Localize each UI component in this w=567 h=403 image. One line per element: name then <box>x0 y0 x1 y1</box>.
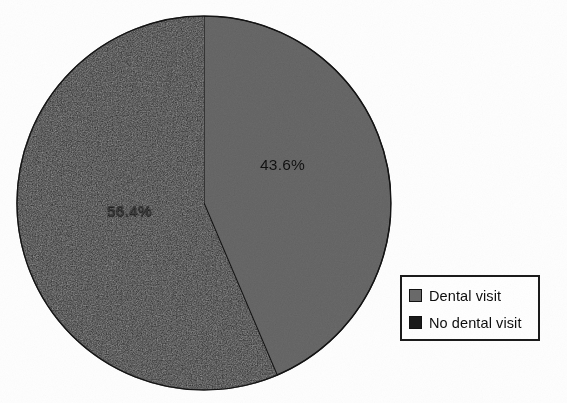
legend-item-dental-visit: Dental visit <box>409 282 532 309</box>
slice-label-no-dental-visit: 56.4% <box>107 202 152 220</box>
chart-legend: Dental visit No dental visit <box>400 275 540 341</box>
pie-chart-graphic <box>0 0 567 403</box>
legend-item-no-dental-visit: No dental visit <box>409 309 532 336</box>
slice-label-dental-visit: 43.6% <box>260 156 305 174</box>
legend-label-dental-visit: Dental visit <box>429 288 501 304</box>
pie-chart: 43.6% 56.4% Dental visit No dental visit <box>0 0 567 403</box>
legend-label-no-dental-visit: No dental visit <box>429 315 522 331</box>
legend-swatch-icon-no-dental-visit <box>409 316 422 329</box>
legend-swatch-icon-dental-visit <box>409 289 422 302</box>
